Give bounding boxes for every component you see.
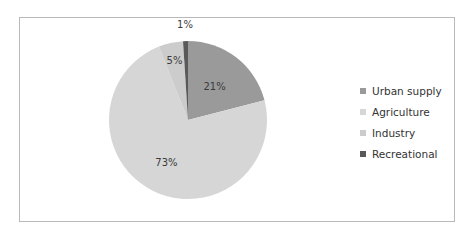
- pie-slices: [109, 41, 267, 199]
- slice-label: 73%: [155, 157, 177, 168]
- legend-swatch: [360, 151, 366, 157]
- legend-swatch: [360, 88, 366, 94]
- legend-item-urban-supply: Urban supply: [360, 80, 442, 101]
- slice-label: 5%: [167, 55, 183, 66]
- legend-item-agriculture: Agriculture: [360, 101, 442, 122]
- legend: Urban supply Agriculture Industry Recrea…: [360, 80, 442, 164]
- legend-item-industry: Industry: [360, 122, 442, 143]
- legend-swatch: [360, 109, 366, 115]
- slice-label: 21%: [204, 81, 226, 92]
- legend-label: Urban supply: [372, 85, 442, 97]
- legend-item-recreational: Recreational: [360, 143, 442, 164]
- legend-label: Recreational: [372, 148, 438, 160]
- legend-label: Agriculture: [372, 106, 430, 118]
- legend-swatch: [360, 130, 366, 136]
- slice-label: 1%: [177, 19, 193, 30]
- legend-label: Industry: [372, 127, 415, 139]
